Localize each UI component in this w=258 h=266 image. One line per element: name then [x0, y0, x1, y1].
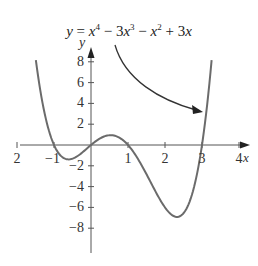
y-tick-label: −6: [69, 200, 84, 214]
title-op4: + 3: [162, 23, 185, 39]
annotation-arrow: [115, 45, 196, 110]
x-tick-label: −1: [45, 152, 60, 166]
title-lhs: y: [66, 23, 73, 39]
title-op2: − 3: [100, 23, 123, 39]
y-tick-label: −4: [69, 180, 84, 194]
polynomial-curve: [36, 60, 212, 217]
x-tick-label: 1: [125, 152, 132, 166]
y-tick-label: 8: [77, 55, 84, 69]
title-op3: −: [135, 23, 151, 39]
y-axis-label: y: [79, 36, 85, 50]
y-tick-label: 6: [77, 76, 84, 90]
y-tick-label: −8: [69, 221, 84, 235]
y-axis-arrow-icon: [88, 47, 95, 58]
x-tick-label: 2: [162, 152, 169, 166]
y-tick-label: 2: [77, 117, 84, 131]
y-tick-label: −2: [69, 159, 84, 173]
x-tick-label: 3: [199, 152, 206, 166]
x-tick-label: 2: [14, 152, 21, 166]
chart-title: y = x4 − 3x3 − x2 + 3x: [0, 22, 258, 40]
x-tick-label: 4: [236, 152, 243, 166]
x-axis-arrow-icon: [240, 142, 250, 149]
x-axis-label: x: [243, 151, 249, 164]
annotation-arrowhead-icon: [192, 105, 203, 114]
y-tick-label: 4: [77, 96, 84, 110]
title-term4: x: [185, 23, 192, 39]
